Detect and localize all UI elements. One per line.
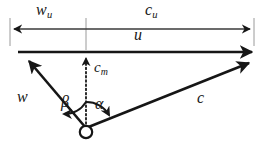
label-w-base: w (17, 88, 28, 105)
label-u: u (134, 27, 142, 43)
label-c: c (197, 90, 204, 106)
label-w: w (17, 89, 28, 105)
label-c-u: cu (145, 2, 157, 18)
label-w-u: wu (36, 2, 52, 18)
label-beta-glyph: β (61, 93, 69, 110)
vector-c (86, 63, 249, 128)
label-u-base: u (134, 26, 142, 43)
label-c-m-base: c (94, 59, 101, 75)
label-w-u-subscript: u (47, 9, 52, 20)
label-c-u-subscript: u (152, 9, 157, 20)
label-alpha-glyph: α (95, 95, 103, 112)
label-alpha: α (95, 96, 103, 112)
label-c-m-subscript: m (101, 66, 108, 77)
label-c-base: c (197, 89, 204, 106)
vector-w (29, 61, 86, 128)
label-w-u-base: w (36, 1, 47, 18)
label-c-m: cm (94, 60, 108, 75)
vector-diagram-canvas (0, 0, 267, 142)
velocity-triangle-figure: wu cu u cm w c β α (0, 0, 267, 142)
label-beta: β (61, 94, 69, 110)
vertex-marker-circle (80, 126, 92, 138)
